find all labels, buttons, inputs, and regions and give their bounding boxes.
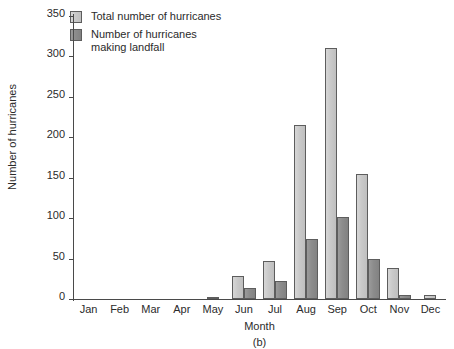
x-tick-label-nov: Nov [390, 303, 410, 316]
y-tick-label: 0 [59, 291, 65, 302]
y-tick-label: 250 [47, 89, 65, 100]
bar-group-dec [415, 16, 446, 299]
bar-group-mar [135, 16, 166, 299]
bar-nov-landfall [399, 295, 411, 299]
x-axis-line [73, 299, 446, 300]
bar-group-oct [353, 16, 384, 299]
bar-group-sep [322, 16, 353, 299]
bar-group-jan [73, 16, 104, 299]
y-tick-label: 200 [47, 129, 65, 140]
bar-oct-total [356, 174, 368, 299]
x-tick-label-mar: Mar [141, 303, 160, 316]
x-tick-label-jan: Jan [80, 303, 98, 316]
x-axis-title: Month [73, 320, 446, 332]
x-tick-label-jun: Jun [235, 303, 253, 316]
x-tick-label-may: May [202, 303, 223, 316]
y-tick-mark [69, 299, 74, 300]
bar-sep-landfall [337, 217, 349, 299]
bar-aug-total [294, 125, 306, 299]
bar-dec-total [424, 295, 436, 299]
bar-sep-total [325, 48, 337, 299]
bar-jun-total [232, 276, 244, 299]
y-tick-label: 150 [47, 170, 65, 181]
bar-jul-total [263, 261, 275, 299]
bar-group-jul [260, 16, 291, 299]
x-tick-label-aug: Aug [296, 303, 316, 316]
y-tick-label: 100 [47, 210, 65, 221]
hurricane-bar-chart-figure: Total number of hurricanes Number of hur… [0, 0, 454, 349]
bar-group-apr [166, 16, 197, 299]
bar-group-may [197, 16, 228, 299]
bar-aug-landfall [306, 239, 318, 299]
y-tick-label: 350 [47, 8, 65, 19]
x-tick-label-apr: Apr [173, 303, 190, 316]
y-tick-label: 50 [53, 251, 65, 262]
bar-group-jun [228, 16, 259, 299]
x-axis-tick-labels: JanFebMarAprMayJunJulAugSepOctNovDec [73, 303, 446, 319]
bar-jul-landfall [275, 281, 287, 299]
bar-group-feb [104, 16, 135, 299]
x-tick-label-feb: Feb [110, 303, 129, 316]
x-tick-label-oct: Oct [360, 303, 377, 316]
figure-caption: (b) [73, 336, 446, 348]
x-tick-label-jul: Jul [268, 303, 282, 316]
y-axis-title: Number of hurricanes [6, 67, 18, 207]
bar-group-aug [291, 16, 322, 299]
bar-nov-total [387, 268, 399, 299]
bar-may-total [207, 297, 219, 299]
x-tick-label-sep: Sep [327, 303, 347, 316]
y-tick-label: 300 [47, 48, 65, 59]
bar-groups [73, 16, 446, 299]
x-tick-label-dec: Dec [421, 303, 441, 316]
bar-oct-landfall [368, 259, 380, 299]
bar-jun-landfall [244, 288, 256, 299]
bar-group-nov [384, 16, 415, 299]
